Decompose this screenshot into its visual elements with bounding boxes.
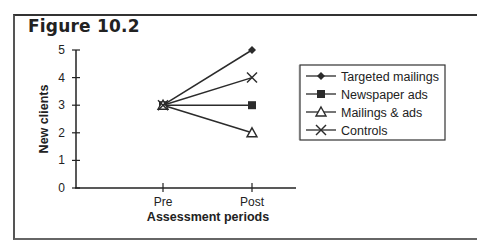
series-group [158, 46, 257, 137]
square-marker-icon [248, 101, 256, 109]
legend-label: Mailings & ads [341, 106, 422, 120]
legend: Targeted mailingsNewspaper adsMailings &… [300, 65, 445, 140]
y-tick-label: 4 [58, 71, 65, 85]
y-tick-label: 1 [58, 153, 65, 167]
x-tick-label: Pre [154, 195, 173, 209]
x-axis-title: Assessment periods [147, 210, 269, 224]
y-tick-label: 5 [58, 43, 65, 57]
square-marker-icon [317, 90, 325, 98]
x-marker-icon [247, 73, 257, 83]
y-axis-title: New clients [37, 85, 51, 154]
x-tick-label: Post [240, 195, 265, 209]
line-chart: 012345 PrePost New clients Assessment pe… [0, 0, 489, 251]
y-tick-label: 0 [58, 181, 65, 195]
legend-label: Newspaper ads [341, 88, 428, 102]
series-line [159, 46, 256, 109]
y-tick-label: 3 [58, 98, 65, 112]
x-axis: PrePost [75, 183, 296, 209]
y-tick-label: 2 [58, 126, 65, 140]
diamond-marker-icon [248, 46, 256, 54]
legend-label: Targeted mailings [341, 70, 439, 84]
legend-label: Controls [341, 124, 388, 138]
y-axis: 012345 [58, 43, 80, 195]
